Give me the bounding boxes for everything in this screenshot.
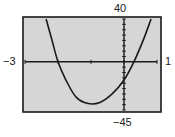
viewing-window bbox=[23, 17, 161, 112]
ymin-label: −45 bbox=[113, 117, 132, 128]
ymax-label: 40 bbox=[114, 3, 126, 14]
xmin-label: −3 bbox=[3, 56, 16, 67]
xmax-label: 1 bbox=[165, 56, 171, 67]
graphing-calculator-plot bbox=[0, 0, 175, 137]
